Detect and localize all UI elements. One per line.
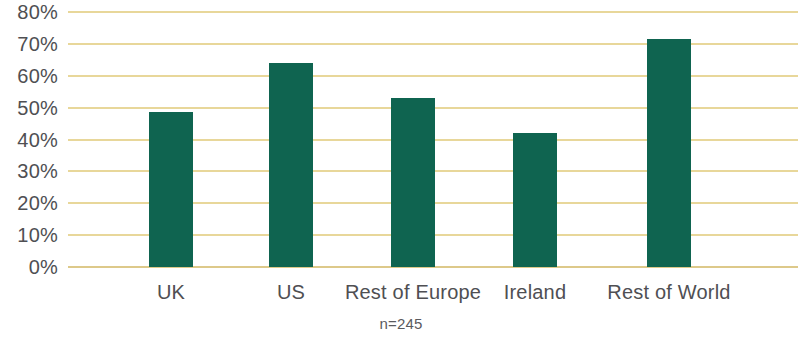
y-axis: 80% 70% 60% 50% 40% 30% 20% 10% 0% (0, 0, 62, 280)
y-tick-label: 80% (17, 2, 58, 22)
bar-chart: 80% 70% 60% 50% 40% 30% 20% 10% 0% UKUSR… (0, 0, 802, 346)
y-tick-label: 20% (17, 193, 58, 213)
x-tick-label: UK (157, 280, 185, 304)
y-tick-label: 50% (17, 98, 58, 118)
y-tick-label: 60% (17, 66, 58, 86)
y-tick-label: 40% (17, 130, 58, 150)
y-tick-label: 10% (17, 225, 58, 245)
x-tick-label: US (277, 280, 305, 304)
x-tick-label: Rest of Europe (345, 280, 481, 304)
sample-size-note: n=245 (0, 316, 802, 331)
x-tick-label: Ireland (504, 280, 567, 304)
bar (269, 63, 313, 267)
x-axis: UKUSRest of EuropeIrelandRest of World (68, 278, 798, 312)
bars (68, 0, 798, 280)
plot-area (68, 0, 798, 280)
bar (647, 39, 691, 267)
bar (391, 98, 435, 267)
bar (513, 133, 557, 267)
y-tick-label: 30% (17, 161, 58, 181)
bar (149, 112, 193, 267)
x-tick-label: Rest of World (607, 280, 730, 304)
y-tick-label: 70% (17, 34, 58, 54)
y-tick-label: 0% (29, 257, 58, 277)
